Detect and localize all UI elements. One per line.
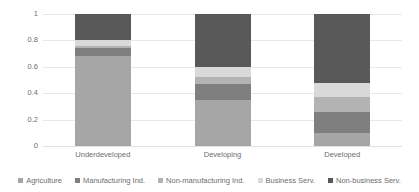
y-axis-tick-label: 0.2 [0,116,38,124]
y-axis-tick-label: 1 [0,10,38,18]
bar-segment[interactable] [75,48,131,57]
legend-swatch-icon [258,178,263,183]
legend-label: Non-manufacturing Ind. [166,176,244,185]
bar-segment[interactable] [195,14,251,67]
bar-segment[interactable] [314,97,370,113]
bar-developed[interactable] [314,14,370,146]
y-axis-tick-label: 0.8 [0,36,38,44]
bar-segment[interactable] [195,84,251,101]
legend-swatch-icon [75,178,80,183]
x-axis-category-labels: UnderdevelopedDevelopingDeveloped [43,149,402,163]
y-axis-tick-label: 0.6 [0,63,38,71]
gridline [43,146,402,147]
bar-segment[interactable] [195,100,251,146]
bar-developing[interactable] [195,14,251,146]
legend-item[interactable]: Non-business Serv. [328,176,401,185]
chart-legend: AgricultureManufacturing Ind.Non-manufac… [0,172,419,188]
legend-label: Agriculture [26,176,62,185]
bar-segment[interactable] [75,56,131,146]
legend-swatch-icon [18,178,23,183]
bar-segment[interactable] [314,14,370,83]
legend-item[interactable]: Manufacturing Ind. [75,176,145,185]
bar-segment[interactable] [314,133,370,146]
x-axis-label: Developing [204,149,242,161]
bar-segment[interactable] [75,46,131,47]
bar-segment[interactable] [195,67,251,77]
stacked-bar-chart: 10.80.60.40.20 UnderdevelopedDevelopingD… [0,0,419,192]
bar-segment[interactable] [314,112,370,133]
x-axis-label: Underdeveloped [75,149,130,161]
bar-segment[interactable] [195,77,251,84]
legend-item[interactable]: Business Serv. [258,176,315,185]
x-axis-label: Developed [324,149,360,161]
bar-segment[interactable] [314,83,370,96]
legend-item[interactable]: Non-manufacturing Ind. [158,176,244,185]
plot-area [43,14,402,146]
bar-underdeveloped[interactable] [75,14,131,146]
legend-item[interactable]: Agriculture [18,176,62,185]
bar-segment[interactable] [75,40,131,46]
bar-segment[interactable] [75,14,131,40]
legend-label: Business Serv. [266,176,315,185]
legend-label: Non-business Serv. [336,176,401,185]
y-axis: 10.80.60.40.20 [0,14,38,146]
y-axis-tick-label: 0 [0,142,38,150]
y-axis-tick-label: 0.4 [0,89,38,97]
legend-label: Manufacturing Ind. [83,176,145,185]
legend-swatch-icon [158,178,163,183]
legend-swatch-icon [328,178,333,183]
